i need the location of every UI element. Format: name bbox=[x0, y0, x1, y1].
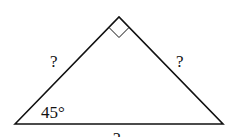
right-angle-marker bbox=[109, 28, 129, 38]
left-side-label: ? bbox=[50, 52, 58, 71]
angle-label: 45° bbox=[41, 103, 65, 122]
base-label: ? bbox=[113, 129, 121, 137]
right-side-label: ? bbox=[176, 52, 184, 71]
triangle-diagram: ? ? 45° ? bbox=[0, 0, 231, 137]
